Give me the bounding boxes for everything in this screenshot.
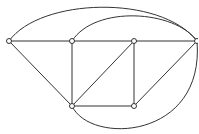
node-a bbox=[7, 39, 12, 44]
edge-c-e bbox=[72, 41, 134, 106]
nodes bbox=[7, 39, 199, 109]
edge-a-e bbox=[9, 41, 72, 106]
node-e bbox=[70, 104, 75, 109]
node-c bbox=[132, 39, 137, 44]
graph-diagram bbox=[0, 0, 198, 134]
arc-e-d bbox=[72, 41, 197, 129]
node-b bbox=[70, 39, 75, 44]
edge-f-d bbox=[134, 41, 197, 106]
node-f bbox=[132, 104, 137, 109]
node-d bbox=[195, 39, 199, 44]
arc-a-d bbox=[9, 7, 197, 41]
arc-b-d bbox=[72, 16, 197, 41]
edges bbox=[9, 7, 197, 128]
